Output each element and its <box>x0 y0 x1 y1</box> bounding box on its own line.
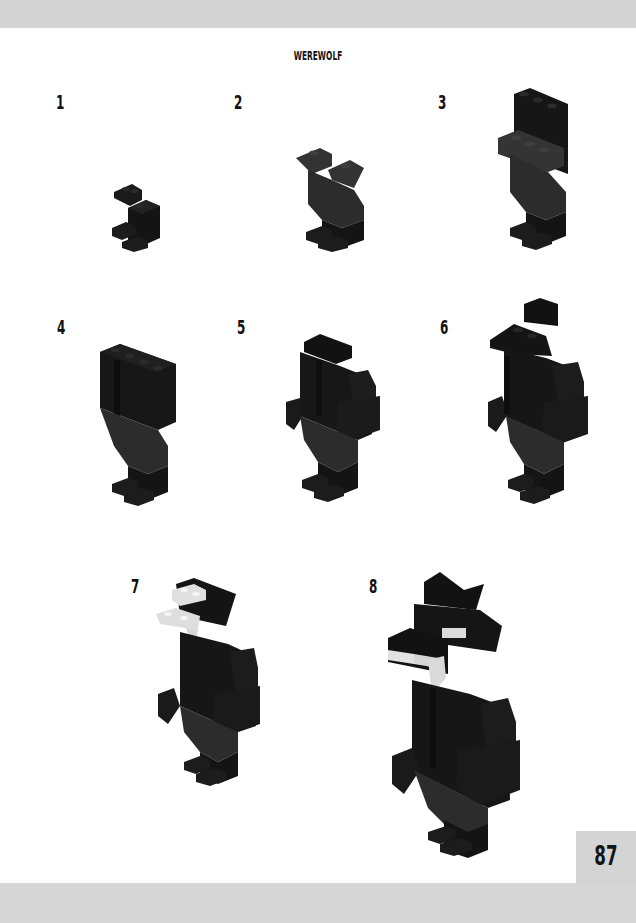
step-5-figure <box>280 330 384 506</box>
step-6-figure <box>484 296 590 506</box>
step-7-figure <box>150 576 260 790</box>
step-4-figure <box>98 342 178 508</box>
page-number: 87 <box>587 842 624 869</box>
step-3-figure <box>496 88 576 252</box>
top-margin-band <box>0 0 636 28</box>
step-number-6: 6 <box>440 317 448 337</box>
step-2-figure <box>292 140 372 252</box>
step-number-1: 1 <box>56 92 64 112</box>
step-1-figure <box>108 180 172 252</box>
step-number-4: 4 <box>57 317 65 337</box>
step-number-7: 7 <box>131 576 139 596</box>
step-8-figure <box>384 570 524 860</box>
step-number-5: 5 <box>237 317 245 337</box>
step-number-8: 8 <box>369 576 377 596</box>
step-number-2: 2 <box>234 92 242 112</box>
page-number-box: 87 <box>576 831 636 883</box>
bottom-margin-band <box>0 883 636 923</box>
step-number-3: 3 <box>438 92 446 112</box>
page-title: WEREWOLF <box>121 49 515 63</box>
